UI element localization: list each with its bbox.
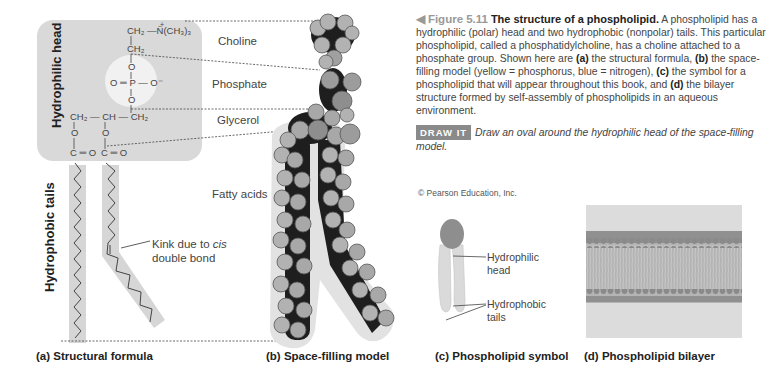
caption-space-filling-model: (b) Space-filling model [266, 350, 389, 362]
figure-caption: ◀ Figure 5.11 The structure of a phospho… [416, 13, 766, 153]
draw-it-prompt: DRAW ITDraw an oval around the hydrophil… [416, 125, 766, 153]
bilayer-graphic [586, 205, 742, 338]
draw-it-badge: DRAW IT [416, 125, 471, 140]
caption-structural-formula: (a) Structural formula [36, 350, 153, 362]
bilayer-image [586, 205, 742, 338]
figure-title: The structure of a phospholipid. [491, 13, 659, 25]
copyright-notice: © Pearson Education, Inc. [418, 188, 517, 198]
bond-lines [74, 36, 131, 149]
straight-tail-band [69, 165, 86, 343]
phospholipid-symbol-graphic [439, 219, 487, 320]
caption-phospholipid-bilayer: (d) Phospholipid bilayer [584, 350, 715, 362]
kinked-tail-band [102, 165, 165, 328]
symbol-head-label: Hydrophilic head [487, 251, 539, 277]
figure-number: Figure 5.11 [428, 13, 488, 25]
kink-leader-line [121, 241, 150, 248]
figure-arrow-icon: ◀ [416, 13, 425, 25]
symbol-tails-label: Hydrophobic tails [487, 298, 546, 324]
caption-phospholipid-symbol: (c) Phospholipid symbol [435, 350, 569, 362]
